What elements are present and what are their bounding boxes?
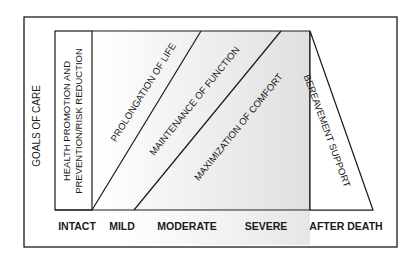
stage-intact: INTACT [58, 220, 96, 232]
stage-mild: MILD [109, 220, 135, 232]
goal-health-line1: HEALTH PROMOTION AND [61, 61, 72, 181]
y-axis-label: GOALS OF CARE [31, 85, 42, 167]
stage-moderate: MODERATE [157, 220, 216, 232]
stage-severe: SEVERE [245, 220, 288, 232]
goal-health-line2: PREVENTION/RISK REDUCTION [73, 48, 84, 194]
stage-after-death: AFTER DEATH [309, 220, 382, 232]
goals-of-care-diagram: GOALS OF CARE HEALTH PROMOTION AND PREVE… [0, 0, 419, 262]
